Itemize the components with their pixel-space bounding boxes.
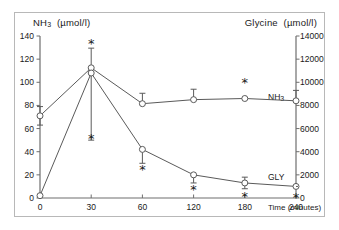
- data-point-marker: [191, 97, 197, 103]
- significance-asterisk: *: [88, 131, 95, 144]
- data-point-marker: [242, 180, 248, 186]
- significance-asterisk: *: [242, 76, 249, 89]
- data-point-marker: [139, 101, 145, 107]
- data-point-marker: [88, 70, 94, 76]
- series-line-gly: [40, 68, 296, 116]
- significance-asterisk: *: [242, 189, 249, 202]
- data-point-marker: [139, 146, 145, 152]
- figure-container: NH3 (µmol/l) Glycine (µmol/l) 0204060801…: [0, 0, 339, 230]
- significance-asterisk: *: [88, 36, 95, 49]
- significance-asterisk: *: [139, 163, 146, 176]
- significance-asterisk: *: [293, 190, 300, 203]
- series-gly: [37, 48, 299, 125]
- data-point-marker: [242, 95, 248, 101]
- data-point-marker: [293, 98, 299, 104]
- series-line-nh3: [40, 73, 296, 196]
- data-point-marker: [37, 193, 43, 199]
- chart-plot-area: [0, 0, 339, 230]
- data-point-marker: [191, 172, 197, 178]
- series-nh3: [37, 70, 299, 199]
- significance-asterisk: *: [190, 182, 197, 195]
- data-point-marker: [37, 113, 43, 119]
